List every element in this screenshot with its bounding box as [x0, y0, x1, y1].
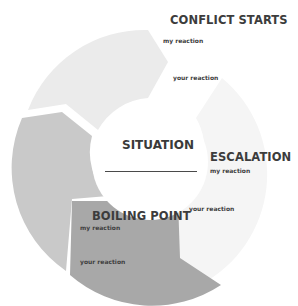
escalation-my-reaction: my reaction	[210, 167, 250, 174]
escalation-your-reaction: your reaction	[189, 205, 234, 212]
center-circle	[92, 104, 208, 220]
stage-title-escalation: ESCALATION	[210, 150, 291, 164]
center-divider	[105, 171, 197, 172]
boiling-point-my-reaction: my reaction	[80, 224, 120, 231]
center-title: SITUATION	[122, 138, 194, 152]
conflict-starts-my-reaction: my reaction	[163, 37, 203, 44]
stage-title-conflict-starts: CONFLICT STARTS	[170, 13, 288, 27]
conflict-starts-your-reaction: your reaction	[173, 74, 218, 81]
stage-title-boiling-point: BOILING POINT	[92, 209, 191, 223]
boiling-point-your-reaction: your reaction	[80, 258, 125, 265]
